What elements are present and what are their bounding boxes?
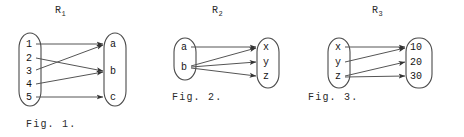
node-label-1: 1 (26, 39, 32, 50)
diagram-r2: a b x y z (152, 0, 304, 100)
edge-b-to-x (191, 48, 256, 66)
edge-b-to-y (191, 62, 256, 67)
node-label-x: x (335, 42, 341, 53)
edge-4-to-b (36, 72, 103, 84)
diagram-r3: x y z 10 20 30 (304, 0, 464, 100)
caption-fig-1: Fig. 1. (26, 119, 76, 130)
edge-2-to-b (36, 58, 103, 71)
figure-r2: R2 a b x y z Fig. 2. (152, 0, 304, 137)
node-label-b: b (181, 62, 187, 73)
edge-3-to-a (36, 45, 103, 70)
node-label-a: a (110, 39, 116, 50)
node-label-2: 2 (26, 53, 32, 64)
node-label-y: y (335, 57, 341, 68)
caption-fig-3: Fig. 3. (308, 92, 358, 103)
figure-sheet: R1 1 2 3 4 5 a b (0, 0, 464, 137)
node-label-30: 30 (410, 71, 422, 82)
edge-z-to-20 (345, 62, 405, 76)
diagram-r1: 1 2 3 4 5 a b c (0, 0, 152, 110)
figure-r1: R1 1 2 3 4 5 a b (0, 0, 152, 137)
edge-z-to-30 (345, 76, 405, 77)
figure-r3: R3 x y z 10 20 30 Fig. 3. (304, 0, 464, 137)
edge-y-to-10 (345, 48, 405, 62)
node-label-3: 3 (26, 66, 32, 77)
node-label-z: z (263, 71, 269, 82)
node-label-b: b (110, 66, 116, 77)
node-label-x: x (263, 42, 269, 53)
caption-fig-2: Fig. 2. (172, 92, 222, 103)
node-label-20: 20 (410, 57, 422, 68)
edge-b-to-z (191, 68, 256, 76)
node-label-10: 10 (410, 42, 422, 53)
node-label-y: y (263, 57, 269, 68)
node-label-a: a (181, 42, 187, 53)
node-label-4: 4 (26, 79, 32, 90)
node-label-c: c (110, 92, 116, 103)
node-label-5: 5 (26, 92, 32, 103)
node-label-z: z (335, 71, 341, 82)
